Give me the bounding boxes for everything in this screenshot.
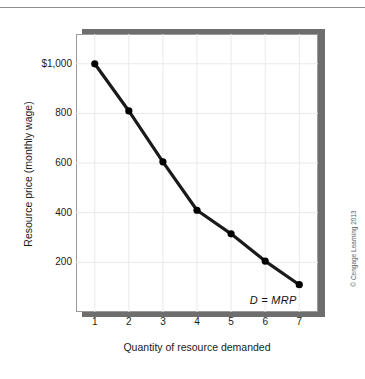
y-axis-title: Resource price (monthly wage)	[22, 84, 34, 264]
figure-container: $1,000800600400200 1234567 Resource pric…	[0, 0, 365, 379]
x-tick-label: 1	[83, 316, 107, 327]
x-axis-title: Quantity of resource demanded	[76, 341, 318, 353]
x-tick-label: 3	[151, 316, 175, 327]
x-tick-label: 4	[185, 316, 209, 327]
x-tick-label: 5	[219, 316, 243, 327]
x-tick-label: 7	[287, 316, 311, 327]
y-tick-label: $1,000	[26, 58, 72, 69]
chart-canvas	[76, 34, 318, 312]
x-axis-tick-labels: 1234567	[76, 316, 318, 332]
gridlines-vertical	[76, 34, 318, 312]
x-tick-label: 6	[253, 316, 277, 327]
x-tick-label: 2	[117, 316, 141, 327]
copyright-credit: © Cengage Learning 2013	[350, 189, 357, 309]
curve-annotation-label: D = MRP	[250, 294, 297, 306]
